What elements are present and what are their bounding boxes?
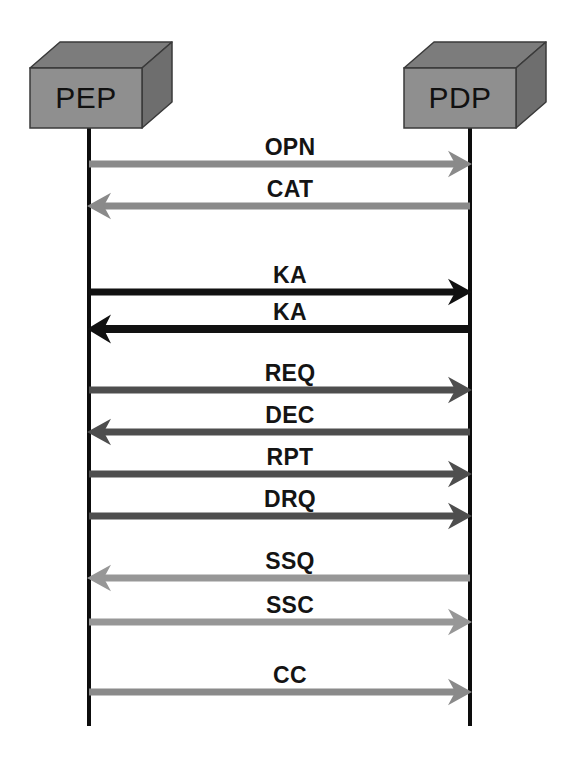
message-label: CC: [273, 662, 307, 688]
node-label-pep: PEP: [55, 81, 117, 114]
message-drq-7: DRQ: [89, 486, 472, 529]
sequence-diagram-canvas: OPNCATKAKAREQDECRPTDRQSSQSSCCC PEPPDP: [0, 0, 579, 764]
message-label: RPT: [267, 444, 314, 470]
message-opn-0: OPN: [89, 134, 472, 177]
node-box-pep[interactable]: PEP: [30, 42, 172, 128]
nodes-layer: PEPPDP: [30, 42, 546, 128]
message-req-4: REQ: [89, 360, 472, 403]
message-ssc-9: SSC: [89, 592, 472, 635]
message-label: CAT: [267, 176, 313, 202]
message-cc-10: CC: [89, 662, 472, 705]
message-label: SSC: [266, 592, 314, 618]
message-label: SSQ: [265, 548, 314, 574]
message-ssq-8: SSQ: [87, 548, 470, 591]
message-dec-5: DEC: [87, 402, 470, 445]
message-label: OPN: [265, 134, 316, 160]
node-box-pdp[interactable]: PDP: [404, 42, 546, 128]
message-label: DRQ: [264, 486, 316, 512]
message-rpt-6: RPT: [89, 444, 472, 487]
message-label: KA: [273, 262, 307, 288]
message-ka-3: KA: [87, 299, 470, 344]
sequence-diagram-svg: OPNCATKAKAREQDECRPTDRQSSQSSCCC PEPPDP: [0, 0, 579, 764]
message-cat-1: CAT: [87, 176, 470, 219]
message-label: REQ: [265, 360, 316, 386]
message-label: KA: [273, 299, 307, 325]
node-label-pdp: PDP: [428, 81, 491, 114]
message-label: DEC: [265, 402, 314, 428]
messages-layer: OPNCATKAKAREQDECRPTDRQSSQSSCCC: [87, 134, 472, 705]
